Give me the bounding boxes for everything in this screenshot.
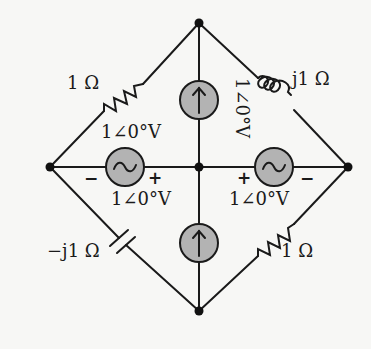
circuit-diagram: 1 Ω j1 Ω 1∠0°V 1∠0°V 1∠0°V 1∠0°V −j1 Ω 1…: [0, 0, 371, 349]
top-current-source-label: 1∠0°V: [233, 78, 251, 138]
inductor-label: j1 Ω: [292, 70, 330, 88]
right-source-minus: −: [300, 170, 314, 187]
circuit-schematic: [0, 0, 371, 349]
left-source-plus: +: [148, 170, 162, 187]
left-source-label-above: 1∠0°V: [101, 123, 161, 141]
top-current-source: [180, 81, 218, 119]
node-top: [195, 19, 204, 28]
bottom-right-resistor-label: 1 Ω: [281, 242, 313, 260]
right-source-plus: +: [237, 170, 251, 187]
top-right-inductor: [199, 23, 348, 167]
right-source-label: 1∠0°V: [229, 190, 289, 208]
node-left: [46, 163, 55, 172]
node-bottom: [195, 307, 204, 316]
left-source-minus: −: [84, 170, 98, 187]
left-source-label-below: 1∠0°V: [111, 190, 171, 208]
right-ac-voltage-source: [255, 148, 293, 186]
node-right: [344, 163, 353, 172]
bottom-current-source: [180, 224, 218, 262]
top-left-resistor: [50, 23, 199, 167]
capacitor-label: −j1 Ω: [47, 242, 100, 260]
top-left-resistor-label: 1 Ω: [67, 74, 99, 92]
left-ac-voltage-source: [106, 148, 144, 186]
node-center: [195, 163, 204, 172]
